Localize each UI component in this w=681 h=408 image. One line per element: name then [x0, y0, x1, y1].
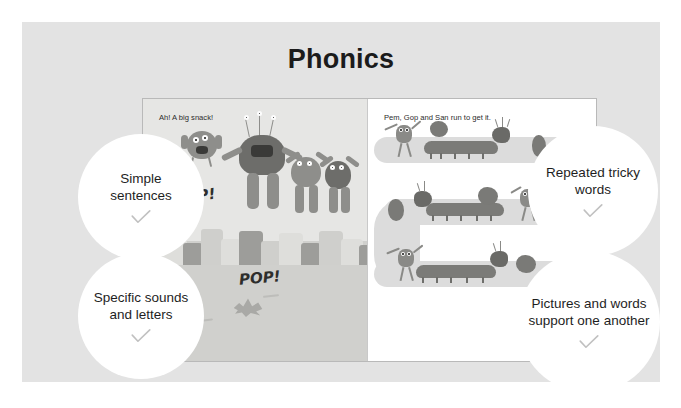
callout-label: Specific sounds and letters	[78, 289, 204, 323]
worm-leg	[440, 153, 442, 159]
monster-antenna	[259, 115, 260, 137]
monster-eye	[244, 115, 249, 120]
rock-shape	[221, 239, 241, 265]
rock-shape	[183, 243, 203, 265]
callout-pictures-and-words-support-one-another[interactable]: Pictures and words support one another	[518, 251, 660, 393]
worm-leg	[430, 153, 432, 159]
monster-eye	[257, 111, 262, 116]
berry-shape	[516, 255, 536, 273]
monster-mouth	[196, 146, 208, 154]
monster-ear	[181, 135, 188, 149]
worm-head	[492, 127, 510, 143]
creature-tuft	[424, 181, 425, 191]
worm-creature	[426, 203, 504, 216]
monster-leg	[267, 173, 279, 209]
creature-tuft	[500, 241, 501, 251]
creature-tuft	[417, 183, 421, 191]
rock-shape	[359, 245, 367, 265]
worm-leg	[460, 215, 462, 221]
callout-repeated-tricky-words[interactable]: Repeated tricky words	[528, 126, 658, 256]
callout-simple-sentences[interactable]: Simple sentences	[78, 134, 204, 260]
creature-eye	[523, 192, 527, 196]
creature-tuft	[495, 119, 499, 127]
rock-shape	[261, 241, 281, 265]
berry-shape	[430, 121, 448, 137]
monster-leg	[341, 187, 350, 213]
slide-page: Phonics Ah! A big snack!	[0, 0, 681, 408]
monster-eye	[330, 165, 335, 170]
worm-leg	[450, 277, 452, 283]
monster-antenna	[245, 119, 250, 137]
callout-label: Pictures and words support one another	[518, 295, 660, 329]
monster-mouth	[251, 145, 273, 157]
rock-shape	[388, 199, 404, 221]
monster-leg	[208, 157, 212, 167]
worm-leg	[490, 215, 492, 221]
callout-label: Repeated tricky words	[528, 164, 658, 198]
monster-leg	[329, 187, 338, 213]
rock-shape	[201, 229, 223, 265]
monster-body	[325, 161, 351, 189]
monster-eye	[297, 161, 302, 166]
creature-eye	[405, 128, 409, 132]
worm-leg	[466, 277, 468, 283]
worm-leg	[454, 153, 456, 159]
monster-leg	[309, 185, 318, 213]
creature-tuft	[502, 117, 503, 127]
monster-body	[291, 157, 321, 187]
worm-leg	[422, 277, 424, 283]
monster-leg	[247, 173, 259, 209]
rock-shape	[279, 233, 303, 265]
worm-leg	[446, 215, 448, 221]
worm-leg	[482, 277, 484, 283]
rock-shape	[301, 243, 321, 265]
slide-canvas: Phonics Ah! A big snack!	[22, 22, 660, 382]
page-title: Phonics	[22, 44, 660, 75]
monster-eye	[339, 165, 344, 170]
checkmark-icon	[582, 204, 604, 218]
callout-specific-sounds-and-letters[interactable]: Specific sounds and letters	[78, 253, 204, 379]
checkmark-icon	[130, 210, 152, 224]
creature-eye	[399, 128, 403, 132]
rock-shape	[319, 231, 343, 265]
worm-leg	[482, 153, 484, 159]
checkmark-icon	[578, 335, 600, 349]
sound-effect-pop: POP!	[238, 267, 281, 289]
worm-leg	[436, 277, 438, 283]
worm-leg	[476, 215, 478, 221]
creature-arm	[411, 120, 421, 129]
berry-shape	[478, 187, 498, 205]
worm-leg	[468, 153, 470, 159]
worm-creature	[416, 265, 496, 278]
callout-label: Simple sentences	[78, 170, 204, 204]
worm-leg	[432, 215, 434, 221]
monster-eye	[271, 115, 276, 120]
creature-tuft	[493, 243, 497, 251]
creature-eye	[401, 252, 405, 256]
checkmark-icon	[130, 329, 152, 343]
monster-eye	[202, 135, 208, 141]
monster-ear	[215, 135, 222, 149]
monster-antenna	[269, 119, 274, 137]
monster-eye	[307, 161, 312, 166]
creature-body	[396, 125, 412, 143]
monster-eye	[193, 137, 199, 143]
worm-creature	[424, 141, 498, 154]
creature-tuft	[507, 119, 511, 127]
monster-leg	[295, 185, 304, 213]
creature-eye	[407, 252, 411, 256]
creature-body	[398, 249, 414, 267]
rock-shape	[239, 231, 263, 265]
worm-head	[490, 251, 508, 267]
